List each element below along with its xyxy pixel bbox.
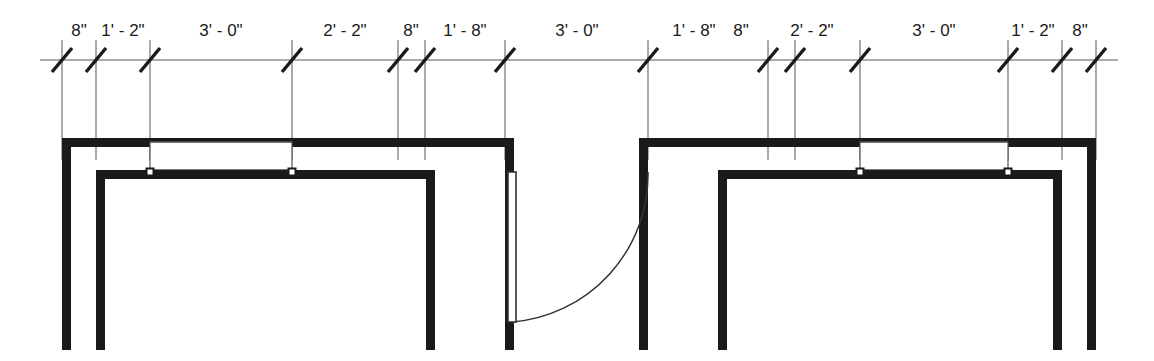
dimension-label-4: 8"	[403, 21, 419, 40]
window-right-jamb-marker-0	[857, 169, 864, 176]
dimension-label-7: 1' - 8"	[672, 21, 715, 40]
window-right-jamb-marker-1	[1005, 169, 1012, 176]
window-left-jamb-marker-1	[289, 169, 296, 176]
dimension-label-8: 8"	[733, 21, 749, 40]
window-right-glazing	[860, 142, 1008, 170]
dimension-label-12: 8"	[1072, 21, 1088, 40]
door-leaf-panel	[508, 172, 516, 322]
plan-canvas: 8"1' - 2"3' - 0"2' - 2"8"1' - 8"3' - 0"1…	[0, 0, 1154, 361]
dimension-label-11: 1' - 2"	[1011, 21, 1054, 40]
dimension-label-2: 3' - 0"	[199, 21, 242, 40]
dimension-label-3: 2' - 2"	[323, 21, 366, 40]
window-left-glazing	[150, 142, 292, 170]
dimension-label-6: 3' - 0"	[555, 21, 598, 40]
floor-plan-drawing: 8"1' - 2"3' - 0"2' - 2"8"1' - 8"3' - 0"1…	[0, 0, 1154, 361]
dimension-label-1: 1' - 2"	[101, 21, 144, 40]
window-left-jamb-marker-0	[147, 169, 154, 176]
dimension-labels: 8"1' - 2"3' - 0"2' - 2"8"1' - 8"3' - 0"1…	[71, 21, 1088, 40]
dimension-label-9: 2' - 2"	[790, 21, 833, 40]
canvas-background	[0, 0, 1154, 361]
dimension-label-5: 1' - 8"	[443, 21, 486, 40]
dimension-label-0: 8"	[71, 21, 87, 40]
dimension-label-10: 3' - 0"	[912, 21, 955, 40]
